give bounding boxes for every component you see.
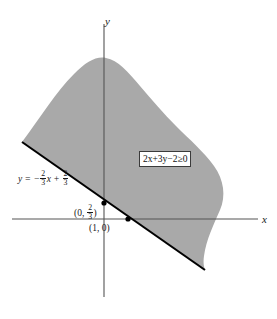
y-intercept-suffix: ) [94, 208, 97, 218]
y-intercept-label: (0, 23) [74, 204, 97, 221]
intercept-denominator: 3 [63, 178, 69, 187]
inequality-graph-figure: y x (0, 23) (1, 0) y = −23x + 23 2x+3y−2… [0, 0, 277, 319]
x-axis-label: x [262, 214, 267, 225]
y-intercept-fraction: 23 [87, 204, 93, 221]
y-intercept-prefix: (0, [74, 208, 87, 218]
slope-denominator: 3 [40, 178, 46, 187]
intercept-fraction: 23 [63, 170, 69, 187]
fraction-numerator: 2 [87, 204, 93, 212]
equation-middle: x + [47, 174, 62, 184]
slope-fraction: 23 [40, 170, 46, 187]
slope-numerator: 2 [40, 170, 46, 178]
line-equation-label: y = −23x + 23 [18, 170, 69, 187]
equation-prefix: y = − [18, 174, 40, 184]
intercept-numerator: 2 [63, 170, 69, 178]
inequality-label-box: 2x+3y−2≥0 [139, 151, 191, 167]
y-axis-label: y [105, 16, 110, 27]
fraction-denominator: 3 [87, 212, 93, 221]
x-intercept-point [125, 216, 130, 221]
x-intercept-label: (1, 0) [89, 224, 110, 234]
y-intercept-point [101, 200, 106, 205]
